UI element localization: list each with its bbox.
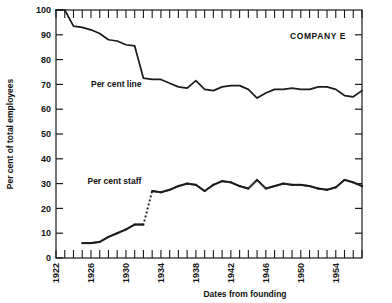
x-tick-label: 1950 <box>296 263 306 283</box>
x-tick-label: 1938 <box>191 263 201 283</box>
y-tick-label: 20 <box>41 204 51 214</box>
series-label-per-cent-staff: Per cent staff <box>87 176 141 186</box>
staff-data-dot <box>148 203 150 205</box>
x-tick-label: 1926 <box>86 263 96 283</box>
x-tick-label: 1946 <box>261 263 271 283</box>
staff-data-dot <box>144 220 146 222</box>
y-tick-label: 90 <box>41 30 51 40</box>
plot-area-border <box>56 10 362 258</box>
x-axis-title: Dates from founding <box>203 289 286 299</box>
y-tick-label: 50 <box>41 129 51 139</box>
y-tick-label: 30 <box>41 179 51 189</box>
x-tick-label: 1954 <box>331 263 341 283</box>
company-annotation: COMPANY E <box>290 31 346 41</box>
staff-data-dot <box>145 216 147 218</box>
y-tick-label: 40 <box>41 154 51 164</box>
chart-figure: 0102030405060708090100 19221926193019341… <box>0 0 392 303</box>
y-axis-title: Per cent of total employees <box>5 78 15 189</box>
staff-data-dot <box>361 185 363 187</box>
series-label-per-cent-line: Per cent line <box>91 79 142 89</box>
chart-canvas: 0102030405060708090100 19221926193019341… <box>0 0 392 303</box>
y-axis-tick-labels: 0102030405060708090100 <box>36 5 51 263</box>
y-tick-label: 80 <box>41 55 51 65</box>
y-tick-label: 60 <box>41 104 51 114</box>
x-tick-label: 1922 <box>51 263 61 283</box>
plot-frame <box>56 10 362 258</box>
staff-data-dot <box>146 212 148 214</box>
x-axis-tick-labels: 192219261930193419381942194619501954 <box>51 263 341 283</box>
staff-data-dot <box>147 208 149 210</box>
staff-data-dot <box>142 224 144 226</box>
y-tick-label: 70 <box>41 80 51 90</box>
staff-data-dot <box>150 195 152 197</box>
x-tick-label: 1934 <box>156 263 166 283</box>
y-tick-label: 100 <box>36 5 51 15</box>
x-tick-label: 1942 <box>226 263 236 283</box>
y-tick-label: 10 <box>41 228 51 238</box>
staff-data-dot <box>149 199 151 201</box>
y-tick-label: 0 <box>46 253 51 263</box>
x-tick-label: 1930 <box>121 263 131 283</box>
